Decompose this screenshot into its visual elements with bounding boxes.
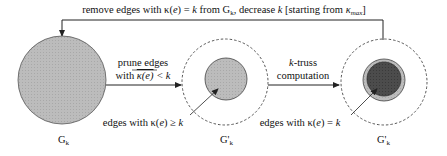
ktruss-computation-arrow: k-truss computation bbox=[268, 57, 339, 85]
ge-pointer bbox=[190, 89, 218, 115]
prune-edges-arrow: prune edges with κ(e) < k bbox=[106, 57, 181, 85]
feedback-arrow bbox=[62, 20, 383, 40]
feedback-label: remove edges with κ(e) = k from Gk, decr… bbox=[82, 4, 366, 17]
ktruss-label-line2: computation bbox=[277, 70, 330, 81]
k-truss-decomposition-diagram: remove edges with κ(e) = k from Gk, decr… bbox=[0, 0, 447, 156]
ktruss-label-line1: k-truss bbox=[289, 57, 317, 68]
Gk-prime-label-2: G'k bbox=[377, 134, 390, 147]
Gk-circle bbox=[18, 36, 106, 124]
pruned-edges-set bbox=[205, 58, 247, 100]
truss-core bbox=[367, 62, 401, 96]
node-Gk-prime-pruned: G'k bbox=[182, 39, 268, 147]
Gk-label: Gk bbox=[58, 134, 70, 147]
node-Gk: Gk bbox=[18, 36, 106, 147]
annotation-eq: edges with κ(e) = k bbox=[260, 117, 341, 129]
Gk-prime-label-1: G'k bbox=[220, 134, 233, 147]
eq-pointer bbox=[351, 89, 377, 115]
annotation-ge: edges with κ(e) ≥ k bbox=[103, 117, 184, 129]
node-Gk-prime-truss: G'k bbox=[341, 39, 427, 147]
prune-label-line2: with κ(e) < k bbox=[116, 70, 171, 82]
prune-label-line1: prune edges bbox=[118, 57, 168, 68]
